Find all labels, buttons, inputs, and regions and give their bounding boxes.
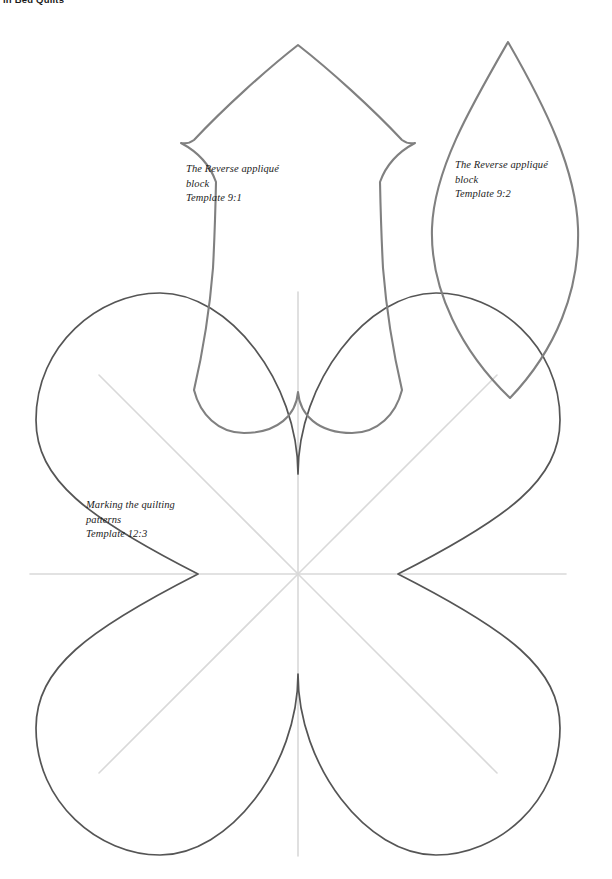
flower-template-label: Marking the quilting patterns Template 1… bbox=[86, 498, 175, 542]
leaf-template-shape bbox=[432, 42, 578, 398]
tulip-template-label: The Reverse appliqué block Template 9:1 bbox=[186, 162, 279, 206]
leaf-outline bbox=[432, 42, 578, 398]
leaf-template-label: The Reverse appliqué block Template 9:2 bbox=[455, 158, 548, 202]
fold-line-sw bbox=[99, 574, 298, 773]
fold-line-se bbox=[298, 574, 497, 773]
flower-template-shape bbox=[30, 292, 566, 856]
flower-fold-lines bbox=[30, 292, 566, 856]
template-page: in Bed Quilts bbox=[0, 0, 612, 879]
template-artwork bbox=[0, 0, 612, 879]
